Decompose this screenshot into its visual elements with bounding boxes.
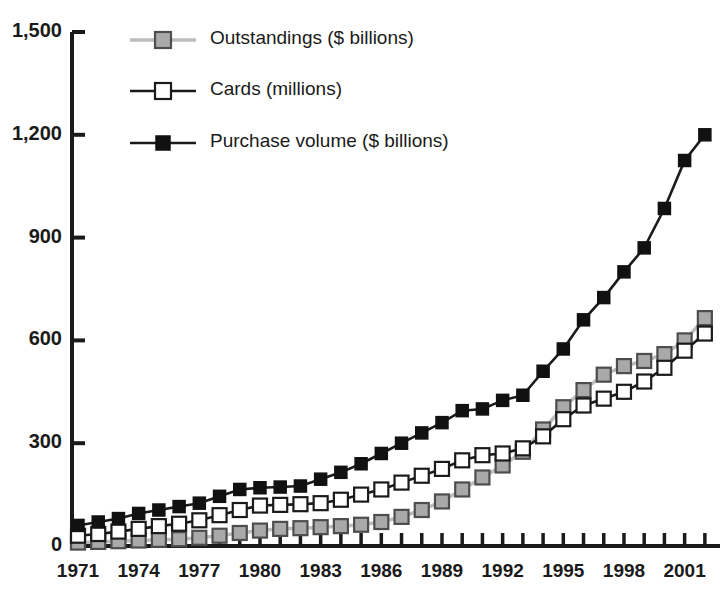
- data-point: [172, 532, 186, 546]
- data-point: [415, 469, 429, 483]
- data-point: [556, 412, 570, 426]
- data-point: [375, 447, 387, 459]
- data-point: [172, 517, 186, 531]
- data-point: [617, 385, 631, 399]
- x-axis-tick-label: 1998: [589, 560, 659, 582]
- data-point: [273, 522, 287, 536]
- legend-item-1: [130, 32, 196, 48]
- data-point: [577, 399, 591, 413]
- data-point: [516, 441, 530, 455]
- data-point: [597, 392, 611, 406]
- x-axis-tick-label: 1992: [468, 560, 538, 582]
- legend-label: Outstandings ($ billions): [210, 27, 414, 49]
- data-point: [435, 462, 449, 476]
- data-point: [273, 498, 287, 512]
- data-point: [618, 266, 630, 278]
- x-axis-tick-label: 1971: [43, 560, 113, 582]
- data-point: [314, 520, 328, 534]
- data-point: [293, 497, 307, 511]
- data-point: [537, 365, 549, 377]
- data-point: [234, 483, 246, 495]
- data-point: [637, 354, 651, 368]
- data-point: [213, 508, 227, 522]
- data-point: [274, 481, 286, 493]
- data-point: [152, 533, 166, 547]
- data-point: [698, 311, 712, 325]
- data-point: [91, 527, 105, 541]
- x-axis-tick-label: 1977: [164, 560, 234, 582]
- data-point: [455, 453, 469, 467]
- data-point: [334, 493, 348, 507]
- data-point: [456, 405, 468, 417]
- data-point: [597, 368, 611, 382]
- data-point: [233, 503, 247, 517]
- data-point: [355, 458, 367, 470]
- data-point: [578, 314, 590, 326]
- data-point: [598, 292, 610, 304]
- data-point: [436, 417, 448, 429]
- y-axis-tick-label: 300: [0, 430, 62, 453]
- data-point: [395, 510, 409, 524]
- data-point: [475, 448, 489, 462]
- data-point: [435, 494, 449, 508]
- data-point: [233, 526, 247, 540]
- legend-item-2: [130, 83, 196, 99]
- data-point: [658, 202, 670, 214]
- data-point: [496, 446, 510, 460]
- x-axis-tick-label: 1986: [346, 560, 416, 582]
- data-point: [253, 524, 267, 538]
- y-axis-tick-label: 0: [0, 533, 62, 556]
- data-point: [315, 473, 327, 485]
- x-axis-tick-label: 2001: [650, 560, 720, 582]
- data-point: [253, 499, 267, 513]
- data-point: [416, 427, 428, 439]
- data-point: [536, 429, 550, 443]
- x-axis-tick-label: 1983: [286, 560, 356, 582]
- chart-figure: 1,5001,200900600300019711974197719801983…: [0, 0, 727, 604]
- data-point: [475, 470, 489, 484]
- y-axis-tick-label: 1,200: [0, 122, 62, 145]
- data-point: [254, 482, 266, 494]
- data-point: [657, 347, 671, 361]
- data-point: [699, 129, 711, 141]
- x-axis-tick-label: 1974: [104, 560, 174, 582]
- legend-item-3: [130, 136, 196, 150]
- y-axis-tick-label: 1,500: [0, 19, 62, 42]
- x-axis-tick-label: 1989: [407, 560, 477, 582]
- data-point: [72, 519, 84, 531]
- data-point: [213, 529, 227, 543]
- data-point: [395, 476, 409, 490]
- data-point: [374, 482, 388, 496]
- data-point: [111, 525, 125, 539]
- y-axis-tick-label: 600: [0, 327, 62, 350]
- data-point: [314, 496, 328, 510]
- data-point: [476, 403, 488, 415]
- data-point: [334, 519, 348, 533]
- data-point: [657, 361, 671, 375]
- data-point: [335, 466, 347, 478]
- x-axis-tick-label: 1980: [225, 560, 295, 582]
- data-point: [455, 482, 469, 496]
- data-point: [396, 437, 408, 449]
- data-point: [214, 490, 226, 502]
- legend-label: Purchase volume ($ billions): [210, 130, 449, 152]
- data-point: [293, 521, 307, 535]
- data-point: [133, 507, 145, 519]
- data-point: [374, 515, 388, 529]
- data-point: [153, 504, 165, 516]
- data-point: [637, 375, 651, 389]
- series-2: [71, 327, 712, 543]
- data-point: [678, 344, 692, 358]
- data-point: [679, 155, 691, 167]
- data-point: [92, 516, 104, 528]
- data-point: [354, 488, 368, 502]
- data-point: [193, 497, 205, 509]
- legend-label: Cards (millions): [210, 78, 342, 100]
- data-point: [557, 343, 569, 355]
- data-point: [415, 503, 429, 517]
- data-point: [517, 389, 529, 401]
- series-3: [72, 129, 711, 532]
- data-point: [577, 383, 591, 397]
- data-point: [497, 394, 509, 406]
- data-point: [617, 359, 631, 373]
